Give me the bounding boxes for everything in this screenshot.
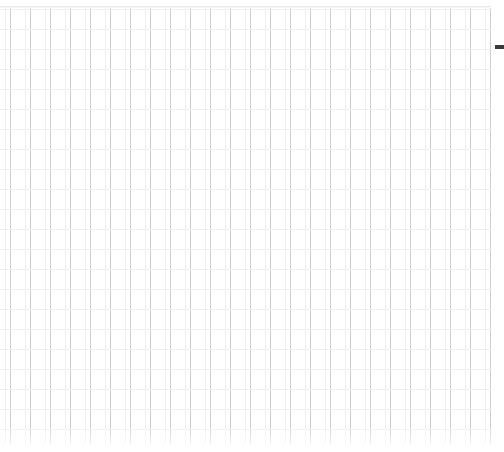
right-edge-dash-marker[interactable]	[495, 45, 504, 49]
right-gutter	[491, 0, 504, 452]
grid-canvas-app	[0, 0, 504, 452]
graph-paper-grid[interactable]	[0, 8, 492, 444]
